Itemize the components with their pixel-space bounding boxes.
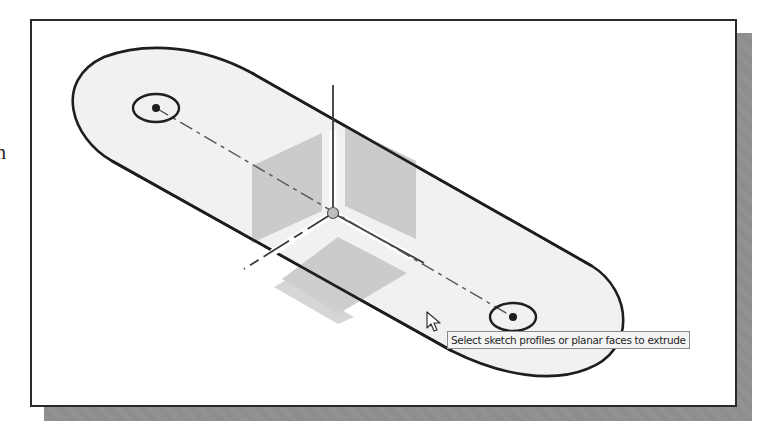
origin-point[interactable] bbox=[328, 208, 339, 219]
arrow-pointer-icon bbox=[426, 311, 442, 333]
command-tooltip: Select sketch profiles or planar faces t… bbox=[447, 331, 690, 349]
circle-right-center bbox=[509, 313, 517, 321]
slot-profile[interactable] bbox=[73, 48, 624, 376]
cropped-side-text: n bbox=[0, 142, 6, 162]
circle-left-center bbox=[152, 104, 160, 112]
cad-viewport[interactable]: Select sketch profiles or planar faces t… bbox=[30, 19, 737, 407]
